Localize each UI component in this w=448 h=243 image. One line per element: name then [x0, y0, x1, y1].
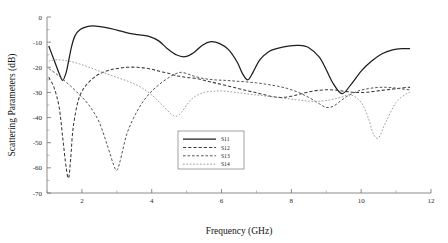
curve-s11	[49, 26, 410, 94]
x-tick-label: 6	[220, 197, 224, 205]
x-tick-label: 2	[80, 197, 84, 205]
y-tick-label: -70	[33, 190, 43, 198]
legend-label-s12: S12	[221, 145, 230, 151]
y-tick-label: -40	[33, 114, 43, 122]
x-axis-title: Frequency (GHz)	[206, 226, 273, 237]
chart-svg: 0-10-20-30-40-50-60-70 24681012 Frequenc…	[0, 0, 448, 243]
y-tick-label: -30	[33, 89, 43, 97]
legend-background	[178, 131, 244, 169]
y-axis-title: Scattering Parameters (dB)	[7, 54, 18, 157]
y-tick-label: -20	[33, 64, 43, 72]
x-tick-label: 10	[358, 197, 366, 205]
y-tick-label: 0	[39, 14, 43, 22]
y-tick-label: -10	[33, 39, 43, 47]
y-tick-label: -50	[33, 139, 43, 147]
scattering-parameters-chart: 0-10-20-30-40-50-60-70 24681012 Frequenc…	[0, 0, 448, 243]
legend-label-s11: S11	[221, 136, 230, 142]
x-axis-ticks: 24681012	[47, 189, 435, 205]
chart-legend: S11S12S13S14	[178, 131, 244, 169]
x-tick-label: 12	[428, 197, 436, 205]
x-tick-label: 8	[290, 197, 294, 205]
x-tick-label: 4	[150, 197, 154, 205]
curve-s14	[49, 60, 410, 139]
legend-label-s13: S13	[221, 153, 230, 159]
legend-label-s14: S14	[221, 161, 230, 167]
y-tick-label: -60	[33, 164, 43, 172]
y-axis-ticks: 0-10-20-30-40-50-60-70	[33, 14, 51, 198]
